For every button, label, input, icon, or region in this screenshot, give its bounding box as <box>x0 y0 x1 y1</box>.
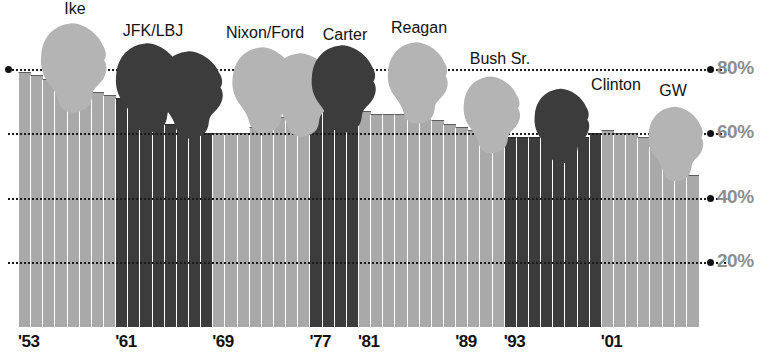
president-name-label: Nixon/Ford <box>226 24 304 42</box>
president-name-label: GW <box>659 82 687 100</box>
president-head-silhouette <box>645 104 709 184</box>
bar <box>212 133 225 327</box>
bar <box>516 137 529 327</box>
bar <box>309 108 322 327</box>
bar <box>152 120 165 327</box>
y-axis-tick-label: 80% <box>717 57 754 79</box>
bar <box>419 117 432 327</box>
bar <box>322 108 335 327</box>
bar <box>613 133 626 327</box>
bar <box>455 127 468 327</box>
gridline <box>8 262 730 264</box>
bar <box>431 120 444 327</box>
bar <box>297 111 310 327</box>
bar <box>261 120 274 327</box>
bar <box>601 130 614 327</box>
president-head-icon <box>460 74 526 156</box>
bar <box>42 79 55 327</box>
bar <box>334 111 347 327</box>
president-head-icon <box>645 104 709 184</box>
bar <box>674 169 687 327</box>
gridline-end-dot <box>707 259 714 266</box>
bar <box>164 124 177 327</box>
president-head-icon <box>35 22 115 114</box>
x-axis-tick-label: '53 <box>18 332 39 352</box>
bar <box>188 130 201 327</box>
bar <box>139 104 152 327</box>
president-name-label: Ike <box>64 0 85 18</box>
president-head-silhouette <box>384 40 454 126</box>
x-axis-tick-label: '61 <box>115 332 136 352</box>
president-name-label: Reagan <box>391 19 447 37</box>
bar <box>394 114 407 327</box>
x-axis-tick-label: '77 <box>309 332 330 352</box>
bar <box>492 137 505 327</box>
bar <box>467 130 480 327</box>
bar <box>285 114 298 327</box>
bar <box>346 111 359 327</box>
y-axis-tick-label: 60% <box>717 121 754 143</box>
bar <box>176 127 189 327</box>
bar <box>200 133 213 327</box>
bar <box>224 133 237 327</box>
bar <box>358 111 371 327</box>
president-head-silhouette <box>35 22 115 114</box>
x-axis-tick-label: '81 <box>358 332 379 352</box>
y-axis-tick-label: 40% <box>717 186 754 208</box>
x-axis-tick-label: '69 <box>212 332 233 352</box>
president-head-icon <box>307 44 383 134</box>
gridline-end-dot <box>707 195 714 202</box>
president-head-icon <box>384 40 454 126</box>
x-axis-tick-label: '93 <box>504 332 525 352</box>
bar <box>370 114 383 327</box>
president-head-silhouette <box>531 86 595 166</box>
bar <box>443 124 456 327</box>
x-axis-tick-label: '89 <box>455 332 476 352</box>
gridline <box>8 198 730 200</box>
bar <box>382 114 395 327</box>
gridline-end-dot <box>707 66 714 73</box>
chart-root: 80%60%40%20% '53'61'69'77'81'89'93'01 Ik… <box>0 0 761 360</box>
president-name-label: Carter <box>323 26 367 44</box>
gridline-start-dot <box>5 66 12 73</box>
bar <box>249 127 262 327</box>
y-axis-tick-label: 20% <box>717 250 754 272</box>
president-name-label: JFK/LBJ <box>123 22 183 40</box>
bar <box>79 88 92 327</box>
bar <box>504 137 517 327</box>
president-head-icon <box>531 86 595 166</box>
president-head-silhouette <box>307 44 383 134</box>
president-head-icon <box>153 50 231 140</box>
president-head-silhouette <box>460 74 526 156</box>
bar <box>91 92 104 327</box>
bar <box>625 133 638 327</box>
bar <box>407 117 420 327</box>
president-head-silhouette <box>153 50 231 140</box>
president-name-label: Bush Sr. <box>470 50 530 68</box>
bar <box>237 133 250 327</box>
x-axis-tick-label: '01 <box>601 332 622 352</box>
bar <box>67 85 80 327</box>
bar <box>54 82 67 327</box>
bar <box>479 133 492 327</box>
bar <box>273 117 286 327</box>
president-name-label: Clinton <box>591 76 641 94</box>
